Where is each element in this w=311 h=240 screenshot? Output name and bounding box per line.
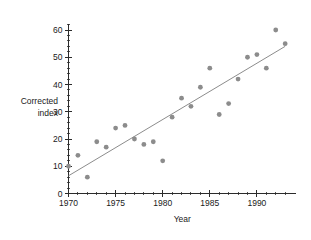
plot-area: 010203040506019701975198019851990YearCor… bbox=[0, 0, 311, 240]
data-point bbox=[160, 158, 165, 163]
data-point bbox=[198, 85, 203, 90]
data-point bbox=[104, 145, 109, 150]
y-axis-tick-label: 60 bbox=[53, 25, 63, 35]
data-point bbox=[151, 139, 156, 144]
data-point bbox=[132, 137, 137, 142]
data-point bbox=[245, 55, 250, 60]
y-axis-title-line1: Corrected bbox=[21, 96, 59, 106]
data-point bbox=[283, 41, 288, 46]
data-point bbox=[85, 175, 90, 180]
y-axis-tick-label: 40 bbox=[53, 80, 63, 90]
y-axis-tick-label: 10 bbox=[53, 161, 63, 171]
data-point bbox=[273, 28, 278, 33]
data-point bbox=[113, 126, 118, 131]
data-point bbox=[94, 139, 99, 144]
data-point bbox=[255, 52, 260, 57]
data-point bbox=[170, 115, 175, 120]
scatter-chart: 010203040506019701975198019851990YearCor… bbox=[0, 0, 311, 240]
y-axis-tick-label: 50 bbox=[53, 52, 63, 62]
x-axis-tick-label: 1970 bbox=[59, 198, 78, 208]
y-axis-title-line2: index bbox=[38, 108, 59, 118]
data-point bbox=[217, 112, 222, 117]
data-point bbox=[179, 96, 184, 101]
data-point bbox=[123, 123, 128, 128]
data-point bbox=[189, 104, 194, 109]
data-point bbox=[141, 142, 146, 147]
y-axis-tick-label: 20 bbox=[53, 134, 63, 144]
data-point bbox=[66, 164, 71, 169]
x-axis-tick-label: 1975 bbox=[106, 198, 125, 208]
chart-generated-layer: 010203040506019701975198019851990YearCor… bbox=[21, 24, 296, 224]
trend-line bbox=[69, 46, 286, 175]
data-point bbox=[226, 101, 231, 106]
data-point bbox=[236, 77, 241, 82]
x-axis-tick-label: 1980 bbox=[153, 198, 172, 208]
x-axis-tick-label: 1990 bbox=[247, 198, 266, 208]
data-point bbox=[207, 66, 212, 71]
data-point bbox=[264, 66, 269, 71]
x-axis-tick-label: 1985 bbox=[200, 198, 219, 208]
data-point bbox=[76, 153, 81, 158]
x-axis-title: Year bbox=[174, 214, 191, 224]
